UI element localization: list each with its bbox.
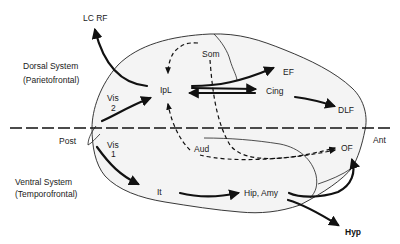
ventral-system-title: Ventral System <box>15 177 72 187</box>
brain-outline <box>92 34 366 213</box>
label-it: It <box>157 187 162 197</box>
label-post: Post <box>59 136 77 146</box>
label-vis2-number: 2 <box>111 103 116 113</box>
ventral-system-subtitle: (Temporofrontal) <box>15 189 78 199</box>
dual-stream-brain-diagram: LC RF Dorsal System (Parietofrontal) Som… <box>0 0 400 244</box>
dorsal-system-subtitle: (Parietofrontal) <box>23 75 79 85</box>
label-of: OF <box>341 143 353 153</box>
dorsal-system-title: Dorsal System <box>23 61 78 71</box>
label-aud: Aud <box>194 144 209 154</box>
label-vis1-number: 1 <box>111 149 116 159</box>
label-ef: EF <box>283 67 294 77</box>
label-vis2-name: Vis <box>107 93 119 103</box>
label-ipl: IpL <box>160 85 172 95</box>
label-hip-amy: Hip, Amy <box>244 188 279 198</box>
label-lc-rf: LC RF <box>83 13 108 23</box>
label-som: Som <box>202 49 219 59</box>
label-cing: Cing <box>266 86 284 96</box>
ipl-to-cing-arrow <box>192 88 255 89</box>
label-dlf: DLF <box>338 105 354 115</box>
label-ant: Ant <box>373 135 386 145</box>
label-hyp: Hyp <box>345 227 361 237</box>
